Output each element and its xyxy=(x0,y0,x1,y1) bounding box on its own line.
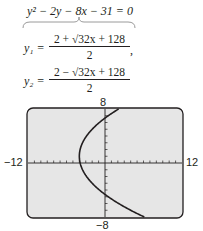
graph-screen xyxy=(0,0,203,231)
